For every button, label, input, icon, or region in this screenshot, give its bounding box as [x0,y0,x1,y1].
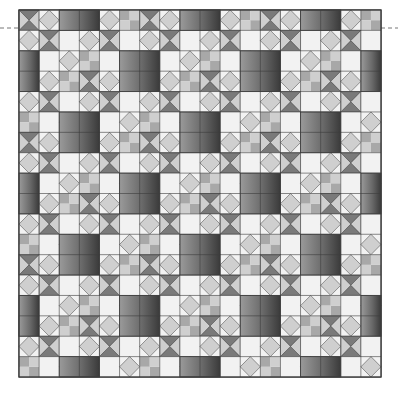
quilt-canvas [0,0,398,394]
quilt-pattern [0,0,398,394]
